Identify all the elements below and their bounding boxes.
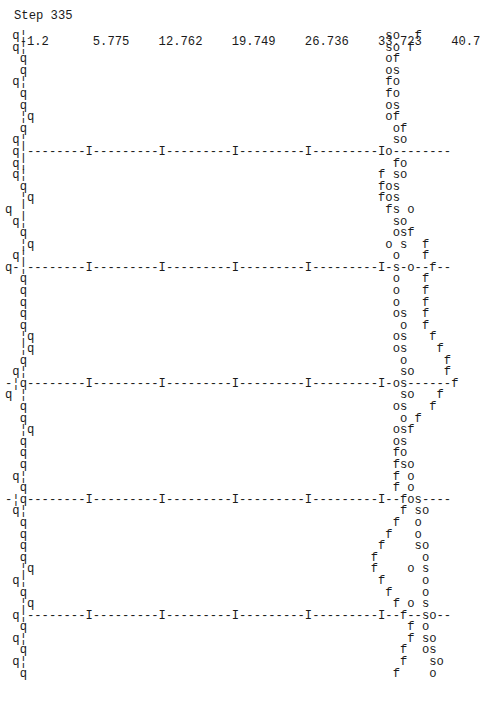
ascii-plot-area: q¦ so f q¦ so f q of q <box>5 31 458 680</box>
plot-row: q f o <box>5 669 458 681</box>
